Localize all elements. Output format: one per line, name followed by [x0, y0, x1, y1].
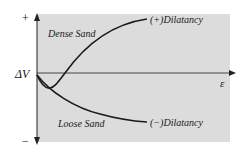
dense-sand-label: Dense Sand	[47, 28, 96, 39]
y-axis-label: ΔV	[14, 67, 31, 81]
positive-sign-label: +	[22, 11, 29, 25]
x-axis-arrow-icon	[229, 70, 236, 76]
x-axis-label: ε	[220, 77, 225, 89]
positive-dilatancy-label: (+)Dilatancy	[150, 14, 203, 26]
dilatancy-diagram: + − ΔV ε Dense Sand Loose Sand (+)Dilata…	[0, 0, 243, 155]
negative-sign-label: −	[22, 134, 29, 148]
loose-sand-label: Loose Sand	[57, 118, 105, 129]
negative-dilatancy-label: (−)Dilatancy	[150, 117, 203, 129]
